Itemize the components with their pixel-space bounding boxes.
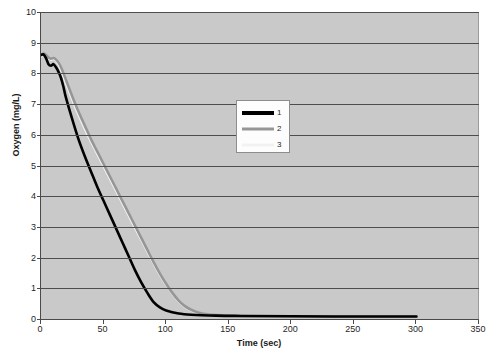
gridline — [41, 166, 479, 167]
oxygen-depletion-chart: Oxygen (mg/L) 012345678910 0501001502002… — [0, 0, 499, 358]
y-tick-label: 10 — [4, 8, 36, 17]
legend[interactable]: 1 2 3 — [236, 100, 290, 153]
y-tick-label: 8 — [4, 69, 36, 78]
x-tick-label: 100 — [145, 325, 185, 334]
legend-swatch-3 — [241, 142, 275, 148]
x-axis-tick-labels: 050100150200250300350 — [40, 320, 478, 340]
legend-item: 2 — [241, 121, 285, 137]
y-tick-label: 4 — [4, 192, 36, 201]
gridline — [41, 227, 479, 228]
figure-caption — [0, 352, 499, 358]
legend-swatch-2 — [241, 126, 275, 132]
x-tick-label: 300 — [395, 325, 435, 334]
y-tick-label: 1 — [4, 284, 36, 293]
x-axis-title: Time (sec) — [40, 338, 478, 348]
gridline — [41, 12, 479, 13]
gridline — [41, 73, 479, 74]
legend-label-1: 1 — [277, 109, 281, 117]
gridline — [41, 258, 479, 259]
x-tick-label: 350 — [458, 325, 498, 334]
x-tick-label: 50 — [83, 325, 123, 334]
y-tick-label: 3 — [4, 222, 36, 231]
plot-area — [40, 12, 479, 320]
legend-item: 1 — [241, 105, 285, 121]
legend-label-3: 3 — [277, 141, 281, 149]
series-line-1 — [41, 54, 416, 316]
x-tick-label: 0 — [20, 325, 60, 334]
legend-swatch-1 — [241, 110, 275, 116]
y-tick-label: 6 — [4, 130, 36, 139]
y-axis-tick-labels: 012345678910 — [0, 12, 36, 319]
gridline — [41, 43, 479, 44]
y-tick-label: 2 — [4, 253, 36, 262]
y-tick-label: 0 — [4, 315, 36, 324]
x-tick-label: 200 — [270, 325, 310, 334]
y-tick-label: 5 — [4, 161, 36, 170]
gridline — [41, 288, 479, 289]
legend-label-2: 2 — [277, 125, 281, 133]
gridline — [41, 196, 479, 197]
x-tick-label: 150 — [208, 325, 248, 334]
legend-item: 3 — [241, 137, 285, 153]
y-tick-label: 7 — [4, 100, 36, 109]
x-tick-label: 250 — [333, 325, 373, 334]
y-tick-label: 9 — [4, 38, 36, 47]
